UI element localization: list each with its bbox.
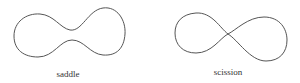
scission-shape — [175, 13, 287, 61]
scission-label: scission — [203, 67, 253, 77]
saddle-label: saddle — [48, 69, 88, 79]
diagram-canvas — [0, 0, 300, 83]
saddle-shape — [14, 8, 125, 57]
